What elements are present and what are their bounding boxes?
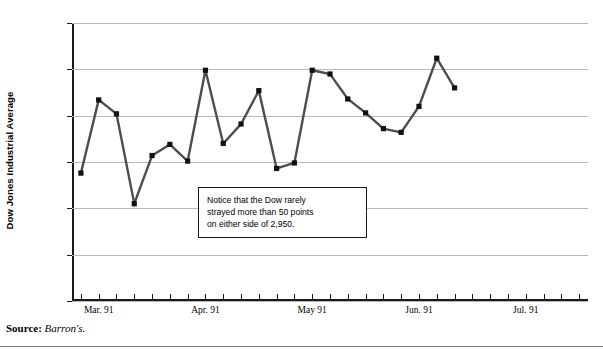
- data-point-marker: [185, 158, 190, 163]
- data-point-marker: [416, 104, 421, 109]
- y-axis-tick-mark: [67, 301, 72, 302]
- source-note: Source: Barron's.: [6, 322, 85, 334]
- data-point-marker: [399, 130, 404, 135]
- data-point-marker: [452, 85, 457, 90]
- source-name: Barron's.: [45, 322, 86, 334]
- x-axis-tick-label: Apr. 91: [191, 305, 220, 315]
- data-point-marker: [221, 141, 226, 146]
- plot-area: 3,0503,0002,9502,9002,8502,8002,750 Mar.…: [72, 23, 588, 301]
- top-rule: [0, 2, 603, 3]
- bottom-rule: [0, 346, 603, 347]
- x-axis-tick-label: Mar. 91: [84, 305, 114, 315]
- x-axis-tick-label: Jul. 91: [513, 305, 538, 315]
- data-point-marker: [310, 68, 315, 73]
- source-prefix: Source:: [6, 322, 42, 334]
- data-point-marker: [256, 88, 261, 93]
- y-axis-title: Dow Jones Industrial Average: [2, 60, 18, 260]
- x-axis-tick-label: May 91: [298, 305, 327, 315]
- data-point-marker: [327, 71, 332, 76]
- data-point-marker: [149, 153, 154, 158]
- data-point-marker: [274, 166, 279, 171]
- y-axis-title-text: Dow Jones Industrial Average: [5, 91, 16, 229]
- data-point-marker: [345, 96, 350, 101]
- data-point-marker: [381, 126, 386, 131]
- data-series-line: [72, 23, 588, 301]
- annotation-callout: Notice that the Dow rarely strayed more …: [198, 187, 367, 238]
- data-point-marker: [238, 121, 243, 126]
- x-axis-tick-label: Jun. 91: [405, 305, 432, 315]
- data-point-marker: [167, 142, 172, 147]
- data-point-marker: [292, 160, 297, 165]
- gridline: [72, 301, 588, 302]
- data-point-marker: [114, 111, 119, 116]
- data-point-marker: [203, 68, 208, 73]
- series-polyline: [81, 58, 455, 203]
- data-point-marker: [434, 56, 439, 61]
- annotation-line-2: strayed more than 50 points: [207, 206, 359, 218]
- annotation-line-1: Notice that the Dow rarely: [207, 194, 359, 206]
- data-point-marker: [78, 171, 83, 176]
- annotation-line-3: on either side of 2,950.: [207, 218, 359, 230]
- data-point-marker: [96, 97, 101, 102]
- figure-chart: Dow Jones Industrial Average 3,0503,0002…: [0, 0, 603, 350]
- data-point-marker: [132, 201, 137, 206]
- data-point-marker: [363, 110, 368, 115]
